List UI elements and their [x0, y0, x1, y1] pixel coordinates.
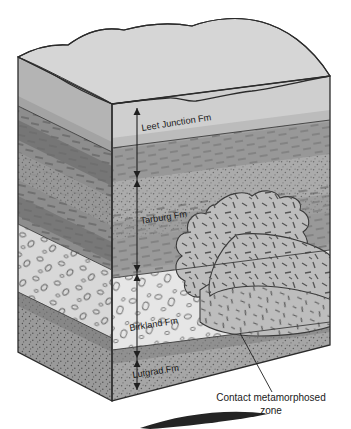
- annotation-contact-zone-line1: Contact metamorphosed: [216, 392, 326, 403]
- block-diagram-svg: Leet Junction Fm Tarburg Fm Birkland Fm …: [0, 0, 351, 429]
- adjacent-figure-sliver: [140, 412, 268, 429]
- block-diagram-figure: Leet Junction Fm Tarburg Fm Birkland Fm …: [0, 0, 351, 429]
- left-face: [18, 57, 112, 401]
